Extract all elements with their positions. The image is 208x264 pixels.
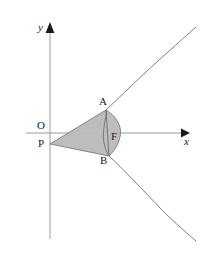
point-label-o: O (37, 120, 45, 131)
point-label-a: A (99, 96, 107, 107)
x-axis-label: x (184, 136, 189, 147)
geometry-figure: y x O P A F B (0, 0, 208, 264)
point-label-b: B (100, 155, 107, 166)
point-label-f: F (111, 131, 117, 142)
y-axis-arrowhead (46, 22, 55, 33)
y-axis-label: y (38, 22, 43, 33)
figure-canvas (0, 0, 208, 264)
parabola-lower-branch (109, 156, 196, 241)
point-label-p: P (38, 138, 44, 149)
